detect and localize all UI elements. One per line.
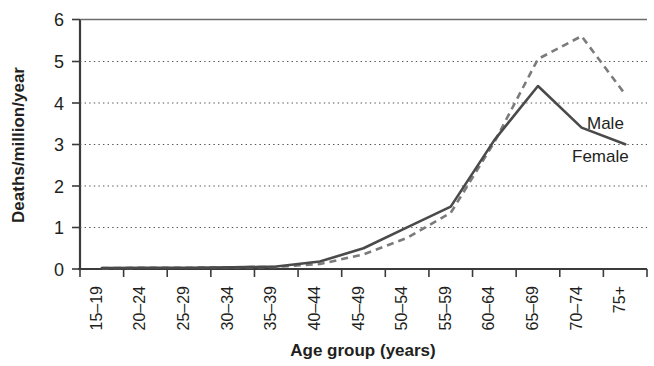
y-tick-label: 5	[54, 52, 64, 72]
y-tick-marks	[72, 20, 80, 270]
x-tick-labels: 15–1920–2425–2930–3435–3940–4445–4950–54…	[88, 286, 628, 331]
x-tick-label: 15–19	[88, 286, 105, 331]
series-line-female	[102, 86, 625, 268]
chart-container: Deaths/million/year 6 5	[0, 0, 654, 366]
series-label-male: Male	[587, 114, 624, 133]
x-tick-label: 35–39	[262, 286, 279, 331]
x-tick-label: 50–54	[393, 286, 410, 331]
y-tick-label: 2	[54, 177, 64, 197]
series-line-male	[102, 36, 625, 268]
y-tick-label: 1	[54, 218, 64, 238]
y-tick-label: 3	[54, 135, 64, 155]
line-chart: Deaths/million/year 6 5	[0, 0, 654, 366]
y-tick-label: 4	[54, 94, 64, 114]
x-tick-marks	[80, 269, 647, 277]
y-tick-label: 0	[54, 260, 64, 280]
x-tick-label: 30–34	[219, 286, 236, 331]
gridlines	[80, 62, 647, 228]
y-axis-label: Deaths/million/year	[9, 67, 28, 223]
x-axis-label: Age group (years)	[290, 341, 435, 360]
x-tick-label: 45–49	[350, 286, 367, 331]
x-tick-label: 60–64	[480, 286, 497, 331]
x-tick-label: 70–74	[568, 286, 585, 331]
y-tick-labels: 6 5 4 3 2 1 0	[54, 10, 64, 280]
series-label-female: Female	[572, 147, 629, 166]
x-tick-label: 55–59	[437, 286, 454, 331]
y-tick-label: 6	[54, 10, 64, 30]
x-tick-label: 40–44	[306, 286, 323, 331]
x-tick-label: 65–69	[524, 286, 541, 331]
x-tick-label: 20–24	[131, 286, 148, 331]
x-tick-label: 25–29	[175, 286, 192, 331]
x-tick-label: 75+	[611, 286, 628, 313]
